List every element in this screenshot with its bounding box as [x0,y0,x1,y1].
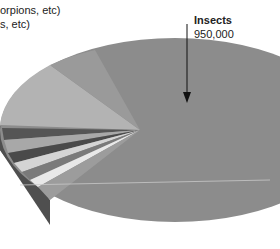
label-insects-value: 950,000 [194,27,234,41]
pie-chart [0,0,280,249]
label-left-line2: s, etc) [0,17,30,31]
label-left-line1: orpions, etc) [0,3,61,17]
label-insects-name: Insects [194,13,232,27]
